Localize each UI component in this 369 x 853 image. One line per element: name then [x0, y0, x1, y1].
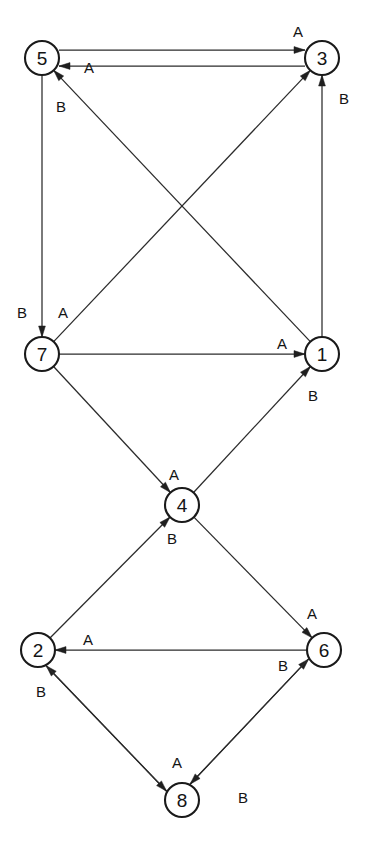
- node-3[interactable]: 3: [305, 41, 339, 75]
- node-label-5: 5: [37, 48, 48, 69]
- edge-7-to-1: [59, 351, 305, 358]
- edge-4-to-6: [194, 517, 312, 638]
- edge-label-2-8: A: [172, 754, 182, 771]
- node-4[interactable]: 4: [165, 488, 199, 522]
- edge-label-8-6: B: [278, 657, 288, 674]
- node-label-1: 1: [317, 344, 328, 365]
- edge-2-to-4: [50, 517, 170, 638]
- graph-diagram: 53714268 AABBBAAABBAABABB: [0, 0, 369, 853]
- node-1[interactable]: 1: [305, 337, 339, 371]
- node-7[interactable]: 7: [25, 337, 59, 371]
- edge-label-4-6: A: [307, 605, 317, 622]
- arrow-head-icon: [294, 47, 305, 54]
- node-5[interactable]: 5: [25, 41, 59, 75]
- arrow-head-icon: [39, 326, 46, 337]
- arrow-head-icon: [319, 75, 326, 86]
- edge-5-to-3: [59, 47, 305, 54]
- edge-2-to-8: [46, 666, 166, 791]
- node-6[interactable]: 6: [307, 633, 341, 667]
- edge-3-to-5: [59, 63, 305, 70]
- node-8[interactable]: 8: [165, 783, 199, 817]
- node-label-2: 2: [33, 640, 44, 661]
- edge-label-7-1: A: [277, 335, 287, 352]
- node-label-3: 3: [317, 48, 328, 69]
- edge-6-to-8: [190, 659, 309, 784]
- edge-5-to-7: [39, 75, 46, 337]
- arrow-head-icon: [294, 351, 305, 358]
- edge-label-6-2: A: [83, 631, 93, 648]
- edge-label-1-3: B: [339, 90, 349, 107]
- edge-6-to-2: [55, 647, 307, 654]
- edge-label-5-3: A: [293, 23, 303, 40]
- edge-label-2-4: B: [167, 530, 177, 547]
- edge-label-3-5: A: [84, 59, 94, 76]
- arrow-head-icon: [55, 647, 66, 654]
- node-label-8: 8: [177, 790, 188, 811]
- graph-canvas: 53714268 AABBBAAABBAABABB: [0, 0, 369, 853]
- node-label-7: 7: [37, 344, 48, 365]
- nodes-layer: 53714268: [21, 41, 341, 817]
- node-label-6: 6: [319, 640, 330, 661]
- edge-label-7-4: A: [169, 466, 179, 483]
- arrow-head-icon: [59, 63, 70, 70]
- edge-4-to-1: [194, 366, 311, 492]
- edge-7-to-4: [54, 366, 171, 492]
- edge-1-to-3: [319, 75, 326, 337]
- edges-layer: [39, 47, 326, 792]
- edge-label-1-5: B: [56, 98, 66, 115]
- edge-label-5-7: B: [17, 304, 27, 321]
- edge-label-7-3: A: [58, 304, 68, 321]
- edge-label-4-1: B: [308, 387, 318, 404]
- edge-label-6-8: B: [238, 789, 248, 806]
- node-2[interactable]: 2: [21, 633, 55, 667]
- edge-label-8-2: B: [36, 683, 46, 700]
- node-label-4: 4: [177, 495, 188, 516]
